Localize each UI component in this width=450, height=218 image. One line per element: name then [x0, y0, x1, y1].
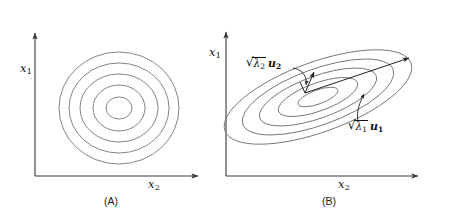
- panel-b-caption: (B): [322, 195, 336, 207]
- panel-a-x-axis-label: x2: [148, 179, 160, 192]
- contour-ring: [93, 85, 145, 131]
- panel-b-y-axis-label: x1: [209, 47, 221, 60]
- figure-canvas: [0, 0, 450, 218]
- panel-a-caption: (A): [104, 195, 118, 207]
- panel-b-x-axis-label: x2: [338, 179, 350, 192]
- major-eigenvector-label: λ1u1: [353, 120, 383, 133]
- contour-ring: [213, 30, 423, 163]
- panel-a-y-axis-label: x1: [20, 63, 32, 76]
- figure-root: x1 x2 (A) x1 x2 λ2u2 λ1u1 (B): [0, 0, 450, 218]
- panel-a-group: [35, 33, 198, 176]
- panel-a-contours: [59, 52, 179, 164]
- contour-ring: [69, 63, 169, 153]
- contour-ring: [59, 52, 179, 164]
- contour-ring: [80, 74, 158, 142]
- contour-ring: [106, 97, 132, 119]
- panel-b-group: [213, 30, 423, 176]
- minor-eigenvector-label: λ2u2: [251, 57, 281, 70]
- panel-b-contours: [213, 30, 423, 163]
